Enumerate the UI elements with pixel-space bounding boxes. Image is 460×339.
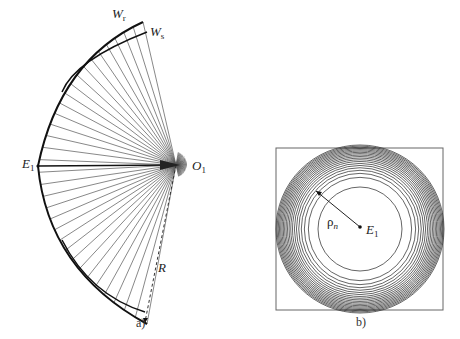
- ring: [318, 187, 402, 271]
- caption-b: b): [356, 315, 366, 329]
- panel-b-ring-diagram: ρn E1 b): [276, 145, 444, 329]
- ring: [289, 158, 431, 300]
- ray-line: [84, 66, 184, 172]
- ring: [283, 152, 436, 305]
- ring: [308, 177, 411, 280]
- rho-radius-line: [316, 191, 360, 227]
- concentric-rings: [276, 145, 444, 313]
- ray-line: [65, 93, 185, 171]
- ring: [279, 148, 440, 309]
- label-wr: Wr: [112, 6, 126, 23]
- ray-line: [77, 75, 184, 172]
- ray-line: [87, 156, 183, 278]
- ray-line: [59, 103, 185, 170]
- ray-line: [98, 51, 182, 174]
- ring: [299, 168, 422, 291]
- ray-fan: [39, 22, 187, 324]
- axis-e1-o1: [38, 165, 176, 166]
- e1-center-point: [358, 225, 362, 229]
- ring: [293, 162, 428, 297]
- ring: [296, 165, 423, 292]
- wavefront-ws-arc: [62, 32, 147, 92]
- ring: [282, 151, 438, 307]
- ring: [304, 173, 415, 284]
- ring: [288, 157, 433, 302]
- e1-point: [36, 164, 39, 167]
- panel-a-ray-diagram: Wr Ws E1 O1 R a): [21, 6, 206, 330]
- ray-line: [106, 44, 181, 174]
- ring: [301, 170, 418, 287]
- ring: [294, 163, 425, 294]
- label-e1-a: E1: [21, 156, 34, 173]
- ring: [291, 160, 430, 299]
- ring: [285, 154, 436, 305]
- ray-line: [124, 32, 180, 175]
- ray-line: [114, 154, 181, 303]
- caption-a: a): [136, 316, 145, 330]
- ray-line: [79, 157, 184, 270]
- figure-canvas: Wr Ws E1 O1 R a) ρn E1 b): [0, 0, 460, 339]
- wavefront-ws-lower-arc: [62, 240, 145, 312]
- wavefront-wr-arc: [38, 22, 147, 324]
- ray-line: [115, 38, 181, 175]
- label-o1: O1: [192, 158, 206, 175]
- label-r: R: [157, 260, 166, 275]
- label-ws: Ws: [150, 24, 165, 41]
- label-rho: ρn: [327, 214, 339, 231]
- ring: [278, 147, 441, 310]
- label-e1-b: E1: [365, 222, 378, 239]
